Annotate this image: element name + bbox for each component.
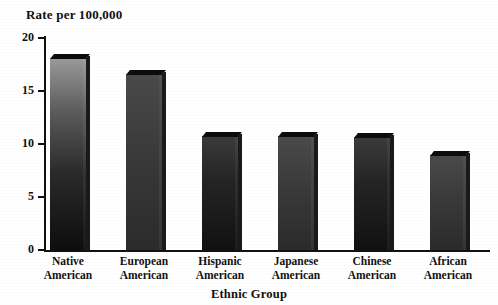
y-axis-caption: Rate per 100,000: [26, 7, 122, 23]
y-tick-label-wrap: 10: [6, 144, 34, 145]
y-tick-label-wrap: 15: [6, 91, 34, 92]
plot-area: [44, 38, 490, 250]
bar-side-face: [86, 56, 90, 250]
x-category-label-line1: European: [120, 255, 168, 267]
bar: [354, 137, 390, 250]
bar-side-face: [162, 72, 166, 250]
x-axis-caption: Ethnic Group: [0, 287, 498, 302]
bar-top-cap: [202, 132, 242, 137]
bar-side-face: [390, 135, 394, 250]
bar: [430, 155, 466, 250]
bar: [202, 136, 238, 250]
bar-side-face: [466, 153, 470, 250]
bar-top-cap: [50, 54, 90, 59]
x-category-label: AfricanAmerican: [403, 254, 493, 282]
bar: [126, 74, 162, 250]
x-category-label-line2: American: [403, 268, 493, 282]
bar-top-cap: [278, 132, 318, 137]
chart-figure: Rate per 100,000 05101520 NativeAmerican…: [0, 0, 498, 305]
x-category-label-line1: Chinese: [353, 255, 392, 267]
x-category-label-line1: African: [429, 255, 467, 267]
bar-top-cap: [430, 151, 470, 156]
y-tick-label-wrap: 5: [6, 197, 34, 198]
x-category-label-line1: Hispanic: [198, 255, 241, 267]
bar-side-face: [238, 134, 242, 250]
y-tick-label: 5: [10, 189, 34, 204]
bar-side-face: [314, 134, 318, 250]
y-tick-label: 15: [10, 83, 34, 98]
y-tick-label: 10: [10, 136, 34, 151]
y-tick-label-wrap: 0: [6, 250, 34, 251]
bar-top-cap: [354, 133, 394, 138]
y-tick-label: 20: [10, 30, 34, 45]
bar: [50, 58, 86, 250]
x-category-label-line1: Japanese: [274, 255, 319, 267]
x-axis-line: [44, 250, 490, 252]
bar: [278, 136, 314, 250]
x-category-label-line1: Native: [52, 255, 84, 267]
bar-top-cap: [126, 70, 166, 75]
y-tick-label-wrap: 20: [6, 38, 34, 39]
